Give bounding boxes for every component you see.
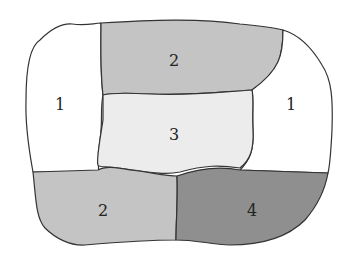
region-left-label: 1 [55, 95, 65, 114]
region-right-label: 1 [286, 95, 296, 114]
map-coloring-diagram: 1 2 1 3 2 4 [0, 0, 354, 276]
region-center-label: 3 [169, 125, 179, 144]
region-bottom-left-label: 2 [98, 201, 108, 220]
region-top [101, 20, 283, 95]
region-top-label: 2 [169, 51, 179, 70]
region-bottom-right-label: 4 [247, 201, 257, 220]
